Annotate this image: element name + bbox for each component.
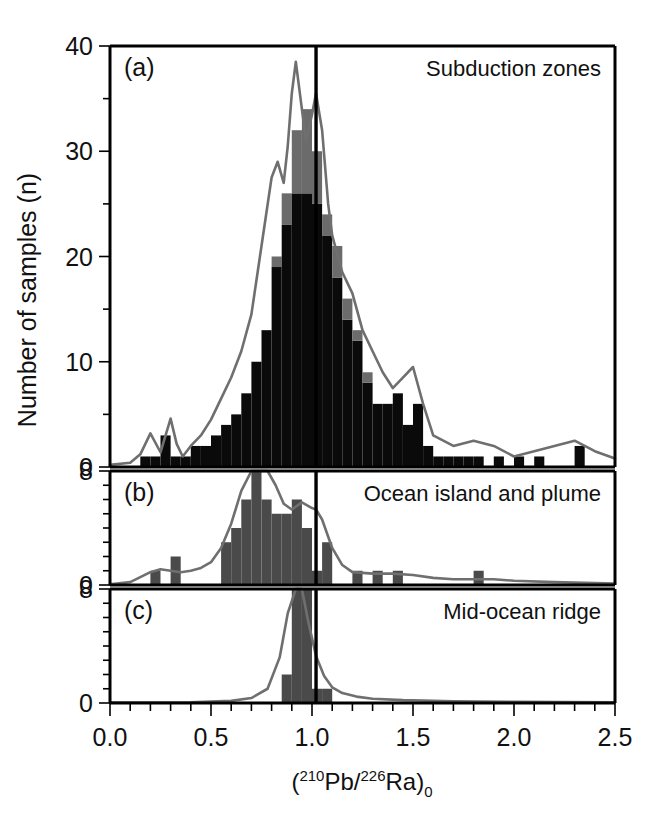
histogram-bar xyxy=(231,414,241,467)
x-tick-label: 0.0 xyxy=(93,723,128,751)
histogram-bar xyxy=(191,446,201,467)
histogram-bar xyxy=(251,471,261,585)
histogram-bar xyxy=(292,500,302,586)
histogram-bar xyxy=(262,330,272,467)
histogram-bar xyxy=(302,528,312,585)
panel-tag: (c) xyxy=(124,596,153,624)
y-tick-label: 10 xyxy=(65,348,93,376)
multi-panel-histogram-figure: (a)Subduction zones010203040 (b)Ocean is… xyxy=(0,0,645,819)
histogram-bar xyxy=(413,404,423,467)
histogram-bar xyxy=(514,456,524,467)
histogram-bar xyxy=(181,456,191,467)
histogram-bar xyxy=(292,589,302,703)
histogram-bar xyxy=(322,689,332,703)
histogram-bar xyxy=(453,456,463,467)
histogram-bar xyxy=(342,320,352,467)
histogram-bar xyxy=(282,675,292,704)
histogram-bar xyxy=(241,500,251,586)
histogram-bar xyxy=(494,456,504,467)
figure-container: (a)Subduction zones010203040 (b)Ocean is… xyxy=(0,0,645,819)
histogram-bar xyxy=(201,446,211,467)
histogram-bar xyxy=(302,193,312,467)
x-tick-label: 2.0 xyxy=(497,723,532,751)
xlabel-pb-slash: Pb/ xyxy=(324,768,360,795)
histogram-bar-cap xyxy=(292,130,302,193)
x-tick-label: 1.0 xyxy=(295,723,330,751)
histogram-bar-cap xyxy=(342,299,352,320)
histogram-bar xyxy=(474,456,484,467)
histogram-bar xyxy=(150,456,160,467)
histogram-bar xyxy=(282,514,292,585)
y-tick-label: 8 xyxy=(79,575,93,603)
histogram-bar xyxy=(393,393,403,467)
panel-title: Mid-ocean ridge xyxy=(443,599,601,624)
histogram-bar xyxy=(231,528,241,585)
histogram-bar xyxy=(443,456,453,467)
histogram-bar xyxy=(423,446,433,467)
histogram-bar-cap xyxy=(352,330,362,341)
histogram-bar xyxy=(464,456,474,467)
xlabel-ra: Ra xyxy=(386,768,417,795)
histogram-bar-cap xyxy=(363,372,373,383)
xlabel-subscript-zero: 0 xyxy=(424,783,432,800)
histogram-bar xyxy=(171,456,181,467)
histogram-bar xyxy=(292,193,302,467)
panel-b: (b)Ocean island and plume08 xyxy=(79,457,615,599)
xlabel-open-paren: ( xyxy=(291,768,299,795)
histogram-bar xyxy=(272,267,282,467)
y-tick-label: 40 xyxy=(65,32,93,60)
panel-tag: (b) xyxy=(124,478,155,506)
histogram-bar xyxy=(474,571,484,585)
histogram-bar xyxy=(403,425,413,467)
histogram-bar xyxy=(221,425,231,467)
histogram-bar xyxy=(534,456,544,467)
histogram-bar xyxy=(262,500,272,586)
y-tick-label: 30 xyxy=(65,137,93,165)
y-tick-label: 8 xyxy=(79,457,93,485)
panel-title: Ocean island and plume xyxy=(364,481,601,506)
histogram-bar-cap xyxy=(272,257,282,268)
x-tick-label: 1.5 xyxy=(396,723,431,751)
y-axis-label: Number of samples (n) xyxy=(13,173,41,427)
histogram-bar xyxy=(272,514,282,585)
y-tick-label: 0 xyxy=(79,689,93,717)
histogram-bar xyxy=(211,435,221,467)
histogram-bar xyxy=(221,542,231,585)
histogram-bar-cap xyxy=(282,193,292,225)
panel-c: (c)Mid-ocean ridge08 xyxy=(79,575,615,717)
histogram-bar xyxy=(575,446,585,467)
histogram-bar xyxy=(322,542,332,585)
histogram-bar xyxy=(251,362,261,467)
histogram-bar xyxy=(322,235,332,467)
histogram-bar xyxy=(373,404,383,467)
histogram-bar xyxy=(241,393,251,467)
histogram-bar xyxy=(302,589,312,703)
y-tick-label: 20 xyxy=(65,243,93,271)
xlabel-close-paren: ) xyxy=(416,768,424,795)
histogram-bar xyxy=(282,225,292,467)
histogram-bar xyxy=(363,383,373,467)
xlabel-superscript-210: 210 xyxy=(299,767,324,784)
panel-title: Subduction zones xyxy=(426,56,601,81)
panel-a: (a)Subduction zones010203040 xyxy=(65,32,615,481)
histogram-bar xyxy=(140,456,150,467)
x-tick-label: 2.5 xyxy=(598,723,633,751)
histogram-bar xyxy=(352,341,362,467)
panel-tag: (a) xyxy=(124,53,155,81)
histogram-bar xyxy=(332,278,342,467)
x-tick-label: 0.5 xyxy=(194,723,229,751)
histogram-bar xyxy=(383,404,393,467)
xlabel-superscript-226: 226 xyxy=(361,767,386,784)
histogram-bar xyxy=(433,456,443,467)
